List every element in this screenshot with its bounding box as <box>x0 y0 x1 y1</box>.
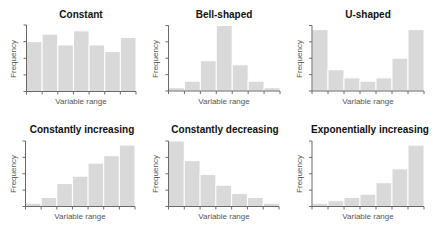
histogram-bar <box>392 169 408 207</box>
histogram-bar <box>344 197 360 206</box>
histogram-bar <box>328 201 344 207</box>
histogram-bar <box>408 145 424 206</box>
histogram-bar <box>360 194 376 206</box>
x-axis-label: Variable range <box>342 212 393 222</box>
histogram-plot <box>0 0 433 232</box>
histogram-bar <box>376 183 392 207</box>
